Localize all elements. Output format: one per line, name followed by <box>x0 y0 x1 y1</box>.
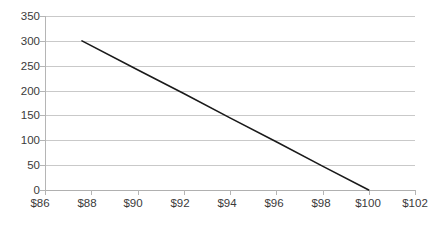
x-tick-94 <box>230 190 231 195</box>
x-tick-102 <box>415 190 416 195</box>
gridline-50 <box>45 165 415 166</box>
x-tick-90 <box>138 190 139 195</box>
y-axis-label-350: 350 <box>21 11 40 23</box>
gridline-300 <box>45 41 415 42</box>
x-axis-label-102: $102 <box>402 198 428 210</box>
y-tick-350 <box>40 16 45 17</box>
plot-area <box>45 16 415 190</box>
x-axis-label-94: $94 <box>217 198 236 210</box>
y-tick-300 <box>40 41 45 42</box>
y-tick-250 <box>40 66 45 67</box>
y-tick-50 <box>40 165 45 166</box>
y-tick-200 <box>40 91 45 92</box>
y-axis-label-150: 150 <box>21 110 40 122</box>
x-axis-label-92: $92 <box>170 198 189 210</box>
y-axis-label-100: 100 <box>21 135 40 147</box>
x-axis-label-88: $88 <box>77 198 96 210</box>
x-axis-label-96: $96 <box>264 198 283 210</box>
x-tick-88 <box>91 190 92 195</box>
x-tick-86 <box>45 190 46 195</box>
y-axis-label-300: 300 <box>21 36 40 48</box>
gridline-200 <box>45 91 415 92</box>
x-axis-label-100: $100 <box>355 198 381 210</box>
x-axis-label-98: $98 <box>311 198 330 210</box>
x-axis-label-86: $86 <box>30 198 49 210</box>
y-tick-150 <box>40 115 45 116</box>
gridline-100 <box>45 140 415 141</box>
y-axis-label-50: 50 <box>27 160 40 172</box>
x-tick-96 <box>276 190 277 195</box>
y-axis-line <box>45 16 46 191</box>
gridline-150 <box>45 115 415 116</box>
gridline-350 <box>45 16 415 17</box>
x-tick-92 <box>184 190 185 195</box>
y-axis-label-250: 250 <box>21 61 40 73</box>
x-axis-label-90: $90 <box>123 198 142 210</box>
x-tick-100 <box>369 190 370 195</box>
x-tick-98 <box>323 190 324 195</box>
y-tick-100 <box>40 140 45 141</box>
gridline-250 <box>45 66 415 67</box>
y-axis-label-0: 0 <box>34 185 40 197</box>
line-chart: 350 300 250 200 150 100 50 0 $86 $88 $90… <box>0 0 439 225</box>
y-axis-label-200: 200 <box>21 86 40 98</box>
y-axis-labels: 350 300 250 200 150 100 50 0 <box>0 0 40 225</box>
